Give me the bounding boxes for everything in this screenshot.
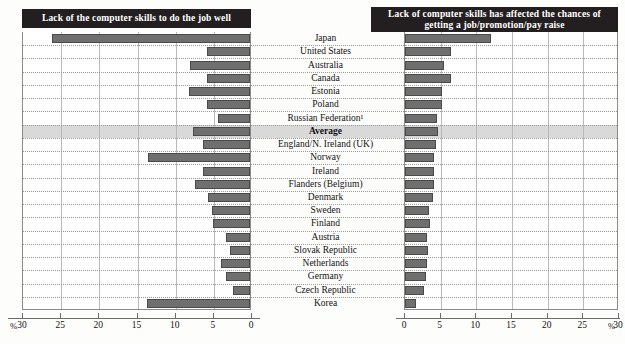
category-label: Average <box>251 126 400 137</box>
gridline-horizontal <box>23 111 250 113</box>
gridline-horizontal <box>405 270 617 272</box>
category-label: Estonia <box>251 86 400 97</box>
bar-left-austria <box>226 233 250 242</box>
gridline-horizontal <box>405 191 617 193</box>
axis-tick-label: 25 <box>578 320 588 330</box>
bar-left-flanders-belgium <box>195 180 250 189</box>
bar-right-united-states <box>405 47 451 56</box>
category-label: Poland <box>251 99 400 110</box>
category-label: Sweden <box>251 205 400 216</box>
gridline-horizontal <box>23 231 250 233</box>
right-panel-title: Lack of computer skills has affected the… <box>371 7 618 32</box>
gridline-horizontal <box>405 257 617 259</box>
bar-right-austria <box>405 233 427 242</box>
bar-left-ireland <box>203 167 250 176</box>
axis-tick <box>213 313 214 318</box>
axis-tick <box>22 313 23 318</box>
category-label: Denmark <box>251 192 400 203</box>
category-label-column: JapanUnited StatesAustraliaCanadaEstonia… <box>251 32 404 310</box>
bar-right-flanders-belgium <box>405 180 434 189</box>
axis-tick <box>440 313 441 318</box>
bar-left-korea <box>147 299 250 308</box>
bar-left-sweden <box>212 206 250 215</box>
left-panel-title: Lack of the computer skills to do the jo… <box>22 9 251 28</box>
axis-tick <box>251 313 252 318</box>
bar-right-ireland <box>405 167 434 176</box>
gridline-horizontal <box>405 178 617 180</box>
gridline-horizontal <box>405 138 617 140</box>
bar-right-russian-federation <box>405 114 437 123</box>
category-label: Russian Federation¹ <box>251 113 400 124</box>
axis-tick <box>60 313 61 318</box>
category-label: Austria <box>251 232 400 243</box>
gridline-horizontal <box>405 297 617 299</box>
bar-right-slovak-republic <box>405 246 428 255</box>
axis-tick <box>475 313 476 318</box>
gridline-horizontal <box>405 151 617 153</box>
bar-right-finland <box>405 219 430 228</box>
gridline-horizontal <box>23 284 250 286</box>
axis-tick <box>582 313 583 318</box>
bar-left-denmark <box>208 193 250 202</box>
axis-tick-label: 10 <box>471 320 481 330</box>
bar-left-canada <box>207 74 250 83</box>
gridline-horizontal <box>405 204 617 206</box>
category-label: Japan <box>251 33 400 44</box>
bar-left-japan <box>52 34 250 43</box>
bar-left-poland <box>207 100 250 109</box>
category-label: Finland <box>251 218 400 229</box>
gridline-horizontal <box>23 257 250 259</box>
left-plot-area <box>22 32 251 310</box>
bar-left-finland <box>213 219 250 228</box>
axis-tick-label: 5 <box>437 320 442 330</box>
bar-left-russian-federation <box>218 114 250 123</box>
axis-tick-label: 20 <box>94 320 104 330</box>
bar-right-czech-republic <box>405 286 424 295</box>
axis-tick-label: 20 <box>542 320 552 330</box>
bar-right-germany <box>405 272 426 281</box>
chart-figure: Lack of the computer skills to do the jo… <box>0 0 625 344</box>
bar-right-japan <box>405 34 491 43</box>
axis-tick <box>618 313 619 318</box>
right-axis-line <box>396 318 620 319</box>
right-plot-area <box>404 32 618 310</box>
axis-tick-label: 15 <box>132 320 142 330</box>
bar-left-slovak-republic <box>230 246 250 255</box>
category-label: United States <box>251 46 400 57</box>
category-label: England/N. Ireland (UK) <box>251 139 400 150</box>
category-label: Norway <box>251 152 400 163</box>
gridline-horizontal <box>405 244 617 246</box>
bar-right-average <box>405 127 438 136</box>
axis-tick-label: 5 <box>210 320 215 330</box>
category-label: Czech Republic <box>251 285 400 296</box>
bar-right-netherlands <box>405 259 427 268</box>
gridline-horizontal <box>405 164 617 166</box>
bar-left-estonia <box>189 87 250 96</box>
axis-tick-label: 25 <box>55 320 65 330</box>
bar-left-czech-republic <box>233 286 250 295</box>
gridline-horizontal <box>405 284 617 286</box>
category-label: Korea <box>251 298 400 309</box>
bar-right-england-n-ireland-uk <box>405 140 436 149</box>
axis-tick-label: 0 <box>402 320 407 330</box>
bar-right-sweden <box>405 206 429 215</box>
bar-left-germany <box>226 272 250 281</box>
axis-tick-label: 30 <box>613 320 623 330</box>
axis-tick <box>547 313 548 318</box>
bar-right-estonia <box>405 87 442 96</box>
axis-tick <box>511 313 512 318</box>
category-label: Ireland <box>251 166 400 177</box>
bar-left-average <box>193 127 250 136</box>
gridline-horizontal <box>405 217 617 219</box>
category-label: Netherlands <box>251 258 400 269</box>
bar-right-norway <box>405 153 434 162</box>
axis-tick-label: 0 <box>249 320 254 330</box>
bar-left-norway <box>148 153 250 162</box>
category-label: Australia <box>251 60 400 71</box>
axis-tick <box>175 313 176 318</box>
gridline-horizontal <box>23 270 250 272</box>
axis-tick-label: 10 <box>170 320 180 330</box>
axis-tick-label: 30 <box>17 320 27 330</box>
bar-right-poland <box>405 100 442 109</box>
category-label: Flanders (Belgium) <box>251 179 400 190</box>
